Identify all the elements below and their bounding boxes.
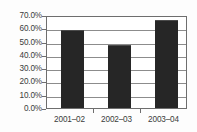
y-axis-tick-label: 60.0% [0,25,42,33]
bar-chart: 70.0% 60.0% 50.0% 40.0% 30.0% 20.0% 10.0… [0,0,197,132]
y-axis-tick-mark [42,109,46,110]
y-axis-tick-label: 10.0% [0,92,42,100]
x-axis-separator-tick [140,109,141,113]
x-axis-tick-label-0: 2001–02 [46,115,93,124]
x-axis-separator-tick [93,109,94,113]
y-axis-tick-label: 0.0% [0,105,42,113]
x-axis-tick-label-1: 2002–03 [93,115,140,124]
y-axis-tick-label: 30.0% [0,65,42,73]
y-axis-tick-label: 70.0% [0,12,42,20]
y-axis-tick-label: 40.0% [0,52,42,60]
bar-2003-04 [155,20,178,108]
bar-2002-03 [108,45,131,108]
y-axis-labels: 70.0% 60.0% 50.0% 40.0% 30.0% 20.0% 10.0… [0,0,42,132]
plot-area [46,16,187,109]
y-axis-tick-label: 20.0% [0,78,42,86]
y-axis-tick-label: 50.0% [0,39,42,47]
x-axis-tick-label-2: 2003–04 [140,115,187,124]
bar-2001-02 [61,30,84,108]
